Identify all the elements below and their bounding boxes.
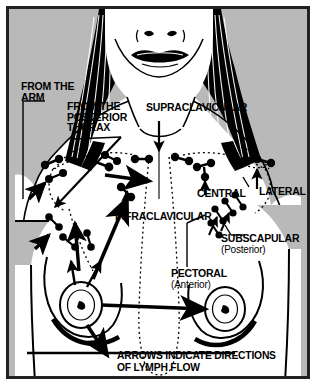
- caption-lymph-flow: ARROWS INDICATE DIRECTIONS OF LYMPH FLOW: [117, 350, 276, 373]
- figure-frame: FROM THE ARM FROM THE POSTERIOR THORAX S…: [6, 6, 310, 379]
- label-central: CENTRAL: [197, 188, 246, 199]
- label-from-the-posterior-thorax: FROM THE POSTERIOR THORAX: [67, 101, 127, 133]
- label-lateral: LATERAL: [259, 186, 306, 197]
- label-subscapular: SUBSCAPULAR: [221, 233, 299, 244]
- label-subscapular-qualifier: (Posterior): [221, 245, 265, 256]
- label-pectoral-qualifier: (Anterior): [171, 280, 211, 291]
- label-supraclavicular: SUPRACLAVICULAR: [146, 102, 247, 113]
- lymphatic-drainage-figure: FROM THE ARM FROM THE POSTERIOR THORAX S…: [0, 0, 316, 385]
- label-pectoral: PECTORAL: [171, 268, 227, 279]
- label-infraclavicular: INFRACLAVICULAR: [115, 211, 212, 222]
